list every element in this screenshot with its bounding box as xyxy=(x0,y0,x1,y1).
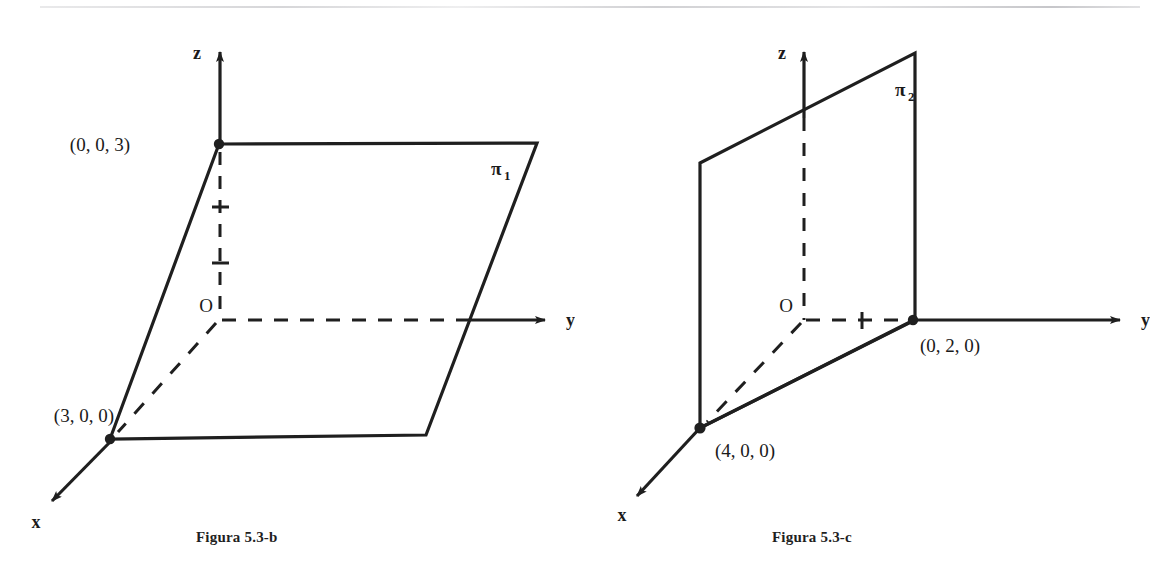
axis-label-z: z xyxy=(193,43,201,63)
plane-label-pi2-subscript: 2 xyxy=(908,89,915,104)
label-point-4-0-0: (4, 0, 0) xyxy=(715,440,775,462)
axis-label-x: x xyxy=(32,512,41,532)
label-origin: O xyxy=(199,295,213,316)
point-0-2-0 xyxy=(908,315,918,325)
axis-label-x: x xyxy=(618,505,627,525)
axis-x-dashed xyxy=(707,323,801,422)
point-3-0-0 xyxy=(105,434,115,444)
axis-label-y: y xyxy=(566,310,575,330)
axis-x-solid xyxy=(52,440,112,501)
axis-z xyxy=(212,52,229,320)
plane-label-pi2: π 2 xyxy=(895,79,915,104)
axis-x xyxy=(637,323,801,496)
figure-5-3-b: (0, 0, 3) (3, 0, 0) O z y x π 1 xyxy=(0,0,575,579)
plane-label-pi1: π 1 xyxy=(491,158,511,183)
plane-label-pi1-glyph: π xyxy=(491,158,502,179)
label-point-0-2-0: (0, 2, 0) xyxy=(920,335,980,357)
point-0-0-3 xyxy=(214,139,224,149)
plane-pi2 xyxy=(700,53,915,428)
figure-b-canvas: (0, 0, 3) (3, 0, 0) O z y x π 1 xyxy=(0,0,575,579)
plane-pi1 xyxy=(110,143,537,439)
label-point-0-0-3: (0, 0, 3) xyxy=(70,134,130,156)
figure-c-canvas: (0, 2, 0) (4, 0, 0) O z y x π 2 xyxy=(575,0,1150,579)
caption-figure-b: Figura 5.3-b xyxy=(196,529,278,546)
figure-page: (0, 0, 3) (3, 0, 0) O z y x π 1 xyxy=(0,0,1150,579)
label-origin: O xyxy=(779,295,793,316)
caption-figure-c: Figura 5.3-c xyxy=(772,529,852,546)
axis-x-solid xyxy=(637,429,699,496)
axis-label-y: y xyxy=(1141,310,1150,330)
plane-pi1-outline xyxy=(110,143,537,439)
axis-y xyxy=(806,312,1120,329)
plane-pi2-outline xyxy=(700,53,915,428)
label-point-3-0-0: (3, 0, 0) xyxy=(54,405,114,427)
point-4-0-0 xyxy=(694,422,705,433)
axis-label-z: z xyxy=(778,43,786,63)
plane-label-pi2-glyph: π xyxy=(895,79,906,100)
figure-5-3-c: (0, 2, 0) (4, 0, 0) O z y x π 2 xyxy=(575,0,1150,579)
plane-pi2-trace xyxy=(700,320,914,428)
plane-label-pi1-subscript: 1 xyxy=(504,168,511,183)
